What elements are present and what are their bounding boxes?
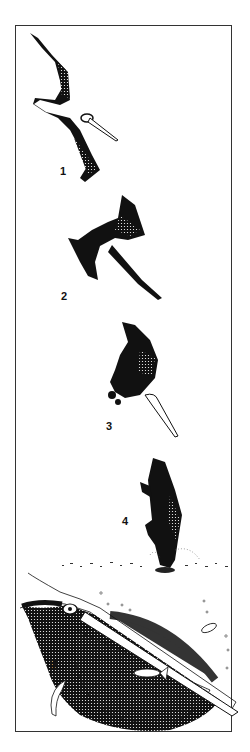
- stage-label-5: 5: [52, 660, 58, 671]
- pelican-3-icon: [108, 322, 178, 437]
- stage-label-4: 4: [122, 516, 128, 527]
- pelican-4-icon: [140, 458, 182, 573]
- pelican-dive-illustration: [0, 0, 250, 752]
- stage-label-3: 3: [106, 421, 112, 432]
- pelican-2-icon: [68, 195, 162, 300]
- stage-label-2: 2: [61, 291, 67, 302]
- water-surface: [62, 549, 228, 567]
- stage-label-1: 1: [60, 166, 66, 177]
- pelican-1-icon: [30, 33, 118, 182]
- fish-right-icon: [200, 621, 217, 634]
